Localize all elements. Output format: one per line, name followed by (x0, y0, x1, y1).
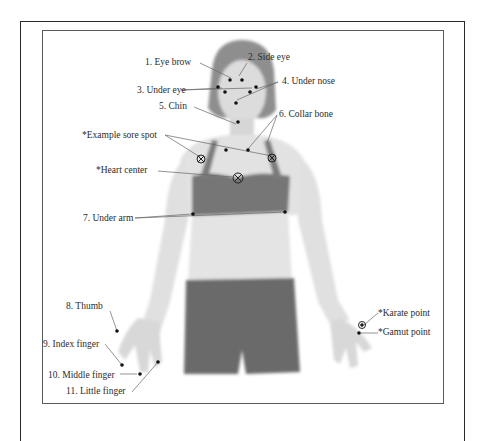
label-collar-bone: 6. Collar bone (279, 110, 333, 120)
label-thumb: 8. Thumb (66, 302, 103, 312)
label-middle-finger: 10. Middle finger (48, 371, 115, 381)
label-under-eye: 3. Under eye (137, 86, 186, 96)
label-under-arm: 7. Under arm (83, 214, 133, 224)
label-index-finger: 9. Index finger (43, 340, 99, 350)
label-heart-center: *Heart center (96, 166, 147, 176)
label-chin: 5. Chin (159, 102, 187, 112)
label-under-nose: 4. Under nose (282, 77, 335, 87)
label-little-finger: 11. Little finger (66, 387, 126, 397)
label-eye-brow: 1. Eye brow (145, 58, 191, 68)
label-karate-point: *Karate point (378, 309, 430, 319)
label-gamut-point: *Gamut point (378, 328, 431, 338)
label-example-sore-spot: *Example sore spot (82, 131, 157, 141)
label-side-eye: 2. Side eye (248, 53, 290, 63)
